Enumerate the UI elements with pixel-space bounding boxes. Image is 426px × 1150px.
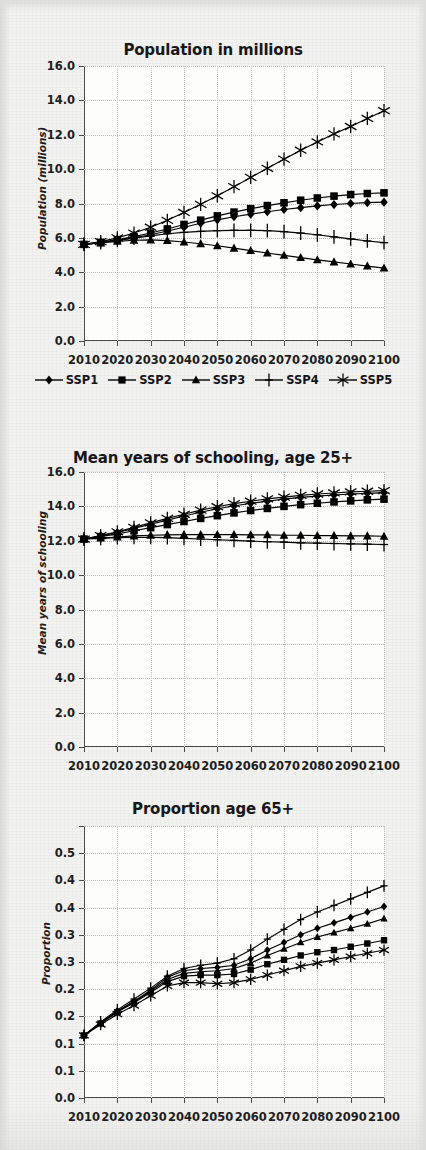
legend-marker-square-icon	[107, 372, 137, 388]
x-tick-mark	[184, 747, 185, 752]
marker-asterisk	[329, 954, 339, 965]
marker-plus	[280, 225, 288, 239]
marker-square	[214, 212, 222, 220]
x-tick-mark	[117, 747, 118, 752]
x-tick-mark	[317, 747, 318, 752]
x-tick-mark	[217, 1098, 218, 1103]
x-tick-label: 2010	[68, 353, 100, 367]
y-tick-label: 12.0	[30, 128, 75, 142]
marker-asterisk	[378, 104, 390, 117]
x-tick-mark	[284, 1098, 285, 1103]
marker-asterisk	[362, 948, 372, 959]
marker-diamond	[45, 376, 52, 385]
x-tick-mark	[84, 341, 85, 346]
chart-title-population: Population in millions	[0, 41, 426, 59]
y-tick-label: 0.4	[30, 873, 75, 887]
marker-asterisk	[278, 152, 290, 165]
marker-plus	[213, 224, 221, 238]
chart-panel-proportion: Proportion age 65+ Proportion 0.00.10.10…	[0, 770, 426, 1150]
y-tick-label: 4.0	[30, 265, 75, 279]
series-layer	[84, 66, 384, 341]
marker-asterisk	[246, 974, 256, 985]
marker-square	[314, 194, 322, 202]
y-tick-label: 8.0	[30, 197, 75, 211]
x-tick-label: 2080	[301, 1110, 333, 1124]
y-tick-label: 0.2	[30, 1009, 75, 1023]
legend-item-ssp2[interactable]: SSP2	[107, 372, 171, 388]
y-tick-label: 8.0	[30, 603, 75, 617]
marker-square	[330, 192, 338, 200]
legend-ssp: SSP1SSP2SSP3SSP4SSP5	[0, 372, 426, 388]
legend-marker-triangle-icon	[181, 372, 211, 388]
marker-asterisk	[262, 969, 272, 980]
legend-item-ssp3[interactable]: SSP3	[181, 372, 245, 388]
marker-asterisk	[112, 231, 124, 244]
x-tick-mark	[117, 1098, 118, 1103]
marker-asterisk	[162, 214, 174, 227]
marker-plus	[380, 236, 388, 250]
legend-item-ssp4[interactable]: SSP4	[254, 372, 318, 388]
marker-square	[264, 961, 270, 967]
x-tick-mark	[184, 1098, 185, 1103]
y-tick-label: 4.0	[30, 671, 75, 685]
marker-asterisk	[245, 171, 257, 184]
legend-label: SSP2	[139, 373, 171, 387]
marker-diamond	[330, 200, 338, 209]
plot-area-schooling: 0.02.04.06.08.010.012.014.016.0201020202…	[84, 472, 384, 747]
y-tick-label: 0.3	[30, 928, 75, 942]
marker-asterisk	[212, 500, 224, 513]
marker-plus	[347, 893, 354, 905]
y-tick-label: 0.2	[30, 982, 75, 996]
legend-item-ssp5[interactable]: SSP5	[328, 372, 392, 388]
marker-square	[380, 189, 388, 197]
marker-asterisk	[379, 944, 389, 955]
marker-plus	[297, 914, 304, 926]
x-tick-label: 2050	[201, 1110, 233, 1124]
marker-plus	[247, 944, 254, 956]
legend-marker-diamond-icon	[34, 372, 64, 388]
legend-item-ssp1[interactable]: SSP1	[34, 372, 98, 388]
marker-square	[347, 944, 353, 950]
marker-square	[297, 952, 303, 958]
x-tick-mark	[217, 341, 218, 346]
marker-square	[331, 947, 337, 953]
y-axis-label-schooling: Mean years of schooling	[36, 511, 48, 655]
x-tick-mark	[351, 747, 352, 752]
marker-square	[281, 957, 287, 963]
x-tick-label: 2050	[201, 353, 233, 367]
x-tick-label: 2080	[301, 353, 333, 367]
marker-square	[347, 191, 355, 199]
marker-plus	[380, 880, 387, 892]
legend-label: SSP5	[360, 373, 392, 387]
x-tick-label: 2100	[368, 1110, 400, 1124]
marker-plus	[180, 531, 188, 545]
marker-square	[197, 216, 205, 224]
marker-plus	[264, 933, 271, 945]
y-tick-label: 0.5	[30, 846, 75, 860]
y-tick-label: 16.0	[30, 465, 75, 479]
chart-panel-population: Population in millions Population (milli…	[0, 0, 426, 410]
marker-square	[230, 208, 238, 216]
x-tick-mark	[384, 341, 385, 346]
plot-area-proportion: 0.00.10.10.20.20.30.30.40.40.52010202020…	[84, 826, 384, 1098]
marker-asterisk	[346, 951, 356, 962]
marker-diamond	[314, 924, 320, 932]
marker-asterisk	[195, 503, 207, 516]
y-tick-label: 16.0	[30, 59, 75, 73]
x-tick-mark	[351, 341, 352, 346]
x-tick-mark	[151, 747, 152, 752]
x-tick-mark	[117, 341, 118, 346]
marker-plus	[263, 224, 271, 238]
plot-area-population: 0.02.04.06.08.010.012.014.016.0201020202…	[84, 66, 384, 341]
x-tick-mark	[184, 341, 185, 346]
marker-asterisk	[245, 495, 257, 508]
marker-asterisk	[195, 198, 207, 211]
marker-diamond	[364, 908, 370, 916]
x-tick-mark	[284, 341, 285, 346]
x-tick-mark	[251, 341, 252, 346]
marker-plus	[314, 906, 321, 918]
marker-asterisk	[212, 189, 224, 202]
marker-square	[231, 971, 237, 977]
legend-marker-asterisk-icon	[328, 372, 358, 388]
x-tick-mark	[84, 1098, 85, 1103]
